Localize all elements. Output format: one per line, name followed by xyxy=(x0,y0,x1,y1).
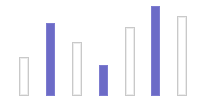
bar-5-outline xyxy=(125,27,135,96)
bar-6-filled xyxy=(151,6,160,96)
bar-7-outline xyxy=(177,16,187,96)
bar-chart xyxy=(0,0,201,103)
bar-1-outline xyxy=(19,57,29,96)
bar-3-outline xyxy=(72,42,82,96)
bar-4-filled xyxy=(99,65,108,96)
bar-2-filled xyxy=(46,23,55,96)
